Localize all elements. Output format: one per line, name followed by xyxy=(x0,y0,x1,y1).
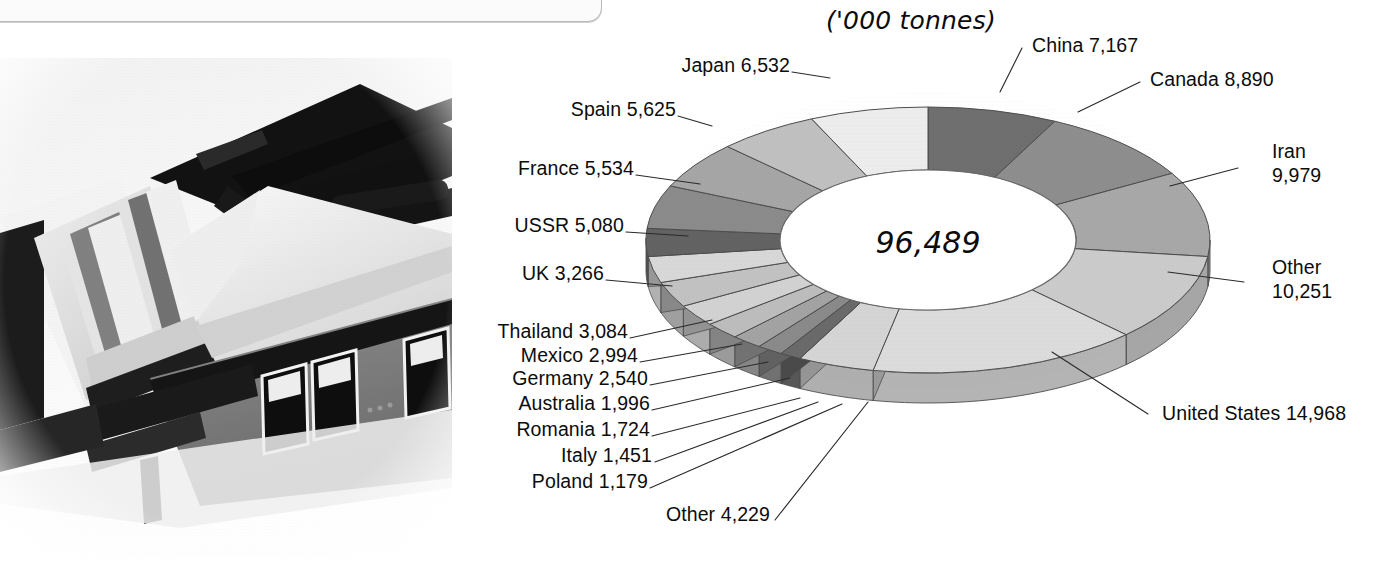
slice-label-japan: Japan 6,532 xyxy=(460,54,790,76)
slice-label-australia: Australia 1,996 xyxy=(300,392,650,414)
slice-label-mexico: Mexico 2,994 xyxy=(300,344,638,366)
slice-label-other-right-name: Other xyxy=(1272,256,1321,278)
slice-label-china: China 7,167 xyxy=(1032,34,1138,56)
slice-label-other-bottom: Other 4,229 xyxy=(430,503,770,525)
slice-label-romania: Romania 1,724 xyxy=(300,418,650,440)
slice-label-iran-value: 9,979 xyxy=(1272,164,1321,186)
slice-label-germany: Germany 2,540 xyxy=(300,367,648,389)
center-total-label: 96,489 xyxy=(838,225,1018,260)
slice-label-united-states: United States 14,968 xyxy=(1162,402,1346,424)
slice-label-thailand: Thailand 3,084 xyxy=(280,320,628,342)
slice-label-france: France 5,534 xyxy=(300,157,634,179)
slice-label-spain: Spain 5,625 xyxy=(350,98,676,120)
slice-label-ussr: USSR 5,080 xyxy=(300,214,624,236)
slice-label-other-right-value: 10,251 xyxy=(1272,280,1332,302)
slice-label-poland: Poland 1,179 xyxy=(300,470,648,492)
slice-label-uk: UK 3,266 xyxy=(300,262,604,284)
slice-label-canada: Canada 8,890 xyxy=(1150,68,1274,90)
slice-label-iran-name: Iran xyxy=(1272,140,1306,162)
chart-units-title: ('000 tonnes) xyxy=(826,6,996,35)
slice-label-italy: Italy 1,451 xyxy=(300,444,652,466)
